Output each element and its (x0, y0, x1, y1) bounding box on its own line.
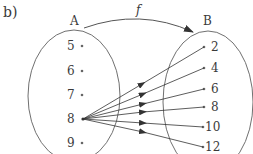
set-a-elements: 5 6 7 8 9 (67, 39, 85, 150)
mapping-diagram: b) A B f 5 6 7 8 9 2 4 6 8 10 12 (0, 0, 253, 154)
point-icon (81, 94, 84, 97)
point-icon (81, 70, 84, 73)
point-icon (81, 45, 84, 48)
function-arrow-icon (84, 19, 193, 32)
set-a-label: A (69, 14, 79, 28)
set-b-ellipse (163, 31, 253, 154)
function-label: f (135, 3, 143, 17)
set-a-element: 6 (67, 64, 75, 78)
set-a-element: 5 (67, 39, 75, 53)
set-b-element: 12 (205, 140, 220, 154)
set-a-element: 8 (67, 112, 75, 126)
point-icon (81, 142, 84, 145)
set-b-element: 8 (211, 100, 219, 114)
set-b-element: 6 (211, 82, 219, 96)
mapping-arrows (83, 47, 204, 147)
arrow-icon (83, 107, 204, 119)
set-b-element: 4 (211, 61, 219, 75)
set-b-elements: 2 4 6 8 10 12 (202, 40, 221, 154)
set-a-element: 9 (67, 136, 75, 150)
set-a-element: 7 (67, 88, 75, 102)
set-b-label: B (203, 14, 212, 28)
part-label: b) (3, 4, 17, 20)
set-b-element: 2 (211, 40, 219, 54)
set-b-element: 10 (205, 120, 220, 134)
